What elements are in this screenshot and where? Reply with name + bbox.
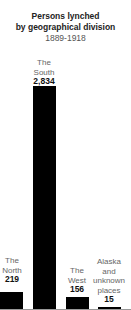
bar-label-alaska-unknown: Alaska and unknown places 15 (91, 257, 127, 305)
label-line: Alaska (97, 257, 121, 266)
bar-label-west: The West 156 (59, 266, 95, 295)
label-line: The (37, 58, 51, 67)
title-line-1: Persons lynched (0, 11, 131, 22)
label-line: The (70, 266, 84, 275)
bar-west (66, 297, 89, 309)
bar-south (33, 86, 56, 309)
chart-subtitle: 1889-1918 (0, 33, 131, 44)
bar-label-north: The North 219 (0, 256, 30, 285)
bar-value-north: 219 (0, 275, 30, 285)
label-line: The (5, 256, 19, 265)
chart-title: Persons lynched by geographical division… (0, 11, 131, 44)
title-line-2: by geographical division (0, 22, 131, 33)
bar-value-alaska-unknown: 15 (91, 295, 127, 305)
label-line: unknown (93, 276, 125, 285)
bar-label-south: The South 2,834 (26, 58, 62, 87)
label-line: and (102, 267, 115, 276)
bar-north (0, 292, 23, 309)
bar-value-west: 156 (59, 285, 95, 295)
